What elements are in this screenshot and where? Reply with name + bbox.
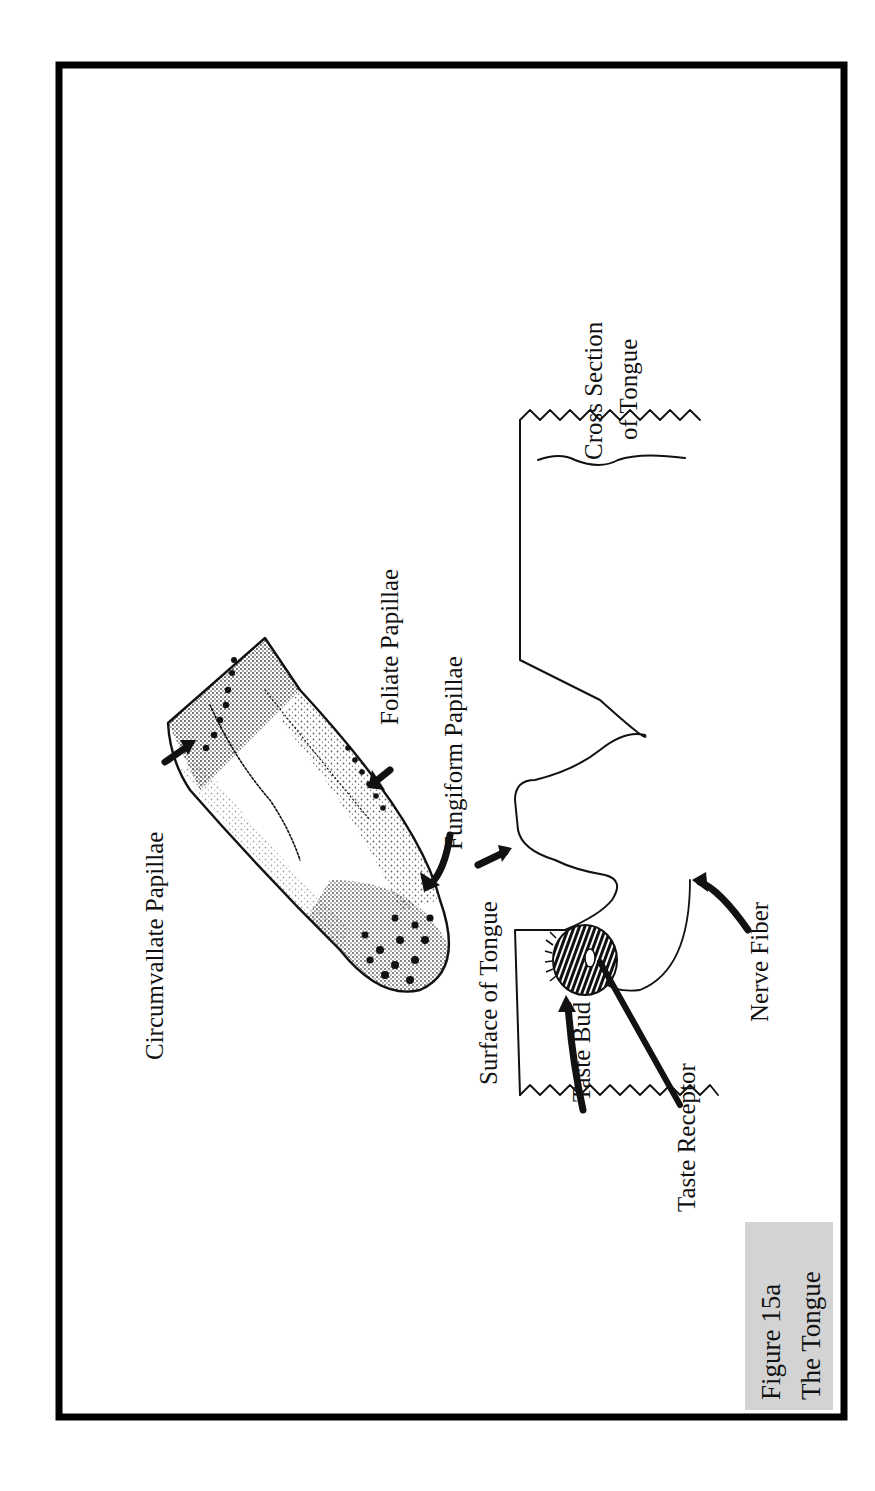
label-circumvallate-papillae: Circumvallate Papillae <box>141 832 168 1060</box>
cross-section-illustration <box>478 410 748 1110</box>
fungiform-cross-arrow <box>478 845 512 865</box>
label-nerve-fiber: Nerve Fiber <box>746 901 773 1022</box>
nerve-fiber-arrow <box>692 872 748 930</box>
tongue-figure: Figure 15a The Tongue <box>0 0 875 1491</box>
caption-box: Figure 15a The Tongue <box>745 1222 833 1410</box>
caption-line-2: The Tongue <box>796 1271 826 1400</box>
label-cross-section-line2: of Tongue <box>615 339 642 440</box>
label-surface-of-tongue: Surface of Tongue <box>475 901 502 1085</box>
label-taste-receptor: Taste Receptor <box>673 1062 700 1212</box>
label-foliate-papillae: Foliate Papillae <box>376 569 403 725</box>
label-fungiform-papillae: Fungiform Papillae <box>440 656 467 850</box>
label-cross-section-line1: Cross Section <box>580 321 607 460</box>
taste-bud-shape <box>545 925 617 995</box>
label-taste-bud: Taste Bud <box>568 1001 595 1102</box>
tongue-illustration <box>150 620 470 1020</box>
taste-receptor-line <box>600 962 680 1105</box>
caption-line-1: Figure 15a <box>756 1284 786 1400</box>
